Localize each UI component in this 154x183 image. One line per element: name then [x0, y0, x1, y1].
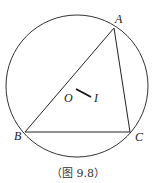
label-c: C	[135, 130, 144, 144]
circumcircle	[6, 15, 148, 157]
label-a: A	[114, 12, 123, 26]
label-i: I	[93, 91, 99, 105]
figure-caption: （图 9.8）	[51, 167, 105, 180]
segment-oi	[76, 89, 91, 97]
label-b: B	[14, 129, 22, 143]
geometry-figure: A B C O I （图 9.8）	[0, 0, 154, 183]
label-o: O	[64, 91, 73, 105]
triangle-abc	[25, 28, 130, 132]
